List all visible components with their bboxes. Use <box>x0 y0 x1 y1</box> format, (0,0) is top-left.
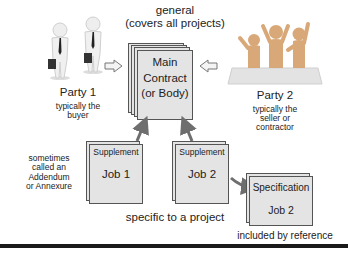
supplement-job2-title: Job 2 <box>176 168 228 181</box>
arrow-job1-to-main <box>137 124 144 141</box>
supplement-job1-title: Job 1 <box>90 168 142 181</box>
supplement-job1-header: Supplement <box>90 148 142 157</box>
arrow-job2-to-main <box>185 124 192 141</box>
supplement-job2-doc[interactable]: Supplement Job 2 <box>175 144 229 204</box>
supplement-note: sometimes called an Addendum or Annexure <box>18 154 80 191</box>
supplement-job1-doc[interactable]: Supplement Job 1 <box>89 144 143 204</box>
specification-header: Specification <box>250 182 312 193</box>
specification-title: Job 2 <box>250 205 312 217</box>
included-by-reference-label: included by reference <box>222 230 348 241</box>
supplement-job2-header: Supplement <box>176 148 228 157</box>
bottom-divider <box>0 244 348 248</box>
supplement-note-line4: or Annexure <box>18 182 80 191</box>
specification-doc[interactable]: Specification Job 2 <box>249 176 313 226</box>
specific-to-project-label: specific to a project <box>110 211 240 224</box>
